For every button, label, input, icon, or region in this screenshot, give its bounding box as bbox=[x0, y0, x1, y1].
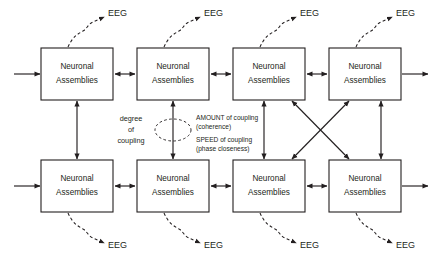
box-rect-top-1 bbox=[41, 48, 113, 100]
box-top-2[interactable]: Neuronal Assemblies bbox=[137, 48, 209, 100]
box-label-top-2-line2: Assemblies bbox=[152, 76, 194, 85]
eeg-label-bottom-1: EEG bbox=[108, 240, 127, 250]
box-label-bottom-1-line2: Assemblies bbox=[56, 188, 98, 197]
box-rect-top-2 bbox=[137, 48, 209, 100]
box-label-top-1-line1: Neuronal bbox=[60, 62, 93, 71]
box-label-top-3-line1: Neuronal bbox=[252, 62, 285, 71]
eeg-label-bottom-3: EEG bbox=[300, 240, 319, 250]
box-rect-top-4 bbox=[329, 48, 401, 100]
box-rect-bottom-4 bbox=[329, 160, 401, 212]
neuronal-assemblies-diagram: Neuronal Assemblies Neuronal Assemblies … bbox=[0, 0, 441, 258]
annot-degree-line3: coupling bbox=[117, 136, 144, 145]
box-bottom-1[interactable]: Neuronal Assemblies bbox=[41, 160, 113, 212]
box-bottom-2[interactable]: Neuronal Assemblies bbox=[137, 160, 209, 212]
annot-speed-line1: SPEED of coupling bbox=[196, 136, 252, 144]
annot-degree-line2: of bbox=[128, 125, 135, 134]
annot-degree-line1: degree bbox=[120, 114, 143, 123]
eeg-label-top-1: EEG bbox=[108, 8, 127, 18]
box-top-4[interactable]: Neuronal Assemblies bbox=[329, 48, 401, 100]
box-label-bottom-2-line1: Neuronal bbox=[156, 174, 189, 183]
box-label-top-4-line2: Assemblies bbox=[344, 76, 386, 85]
eeg-label-bottom-2: EEG bbox=[204, 240, 223, 250]
eeg-label-top-2: EEG bbox=[204, 8, 223, 18]
eeg-label-top-4: EEG bbox=[396, 8, 415, 18]
box-top-3[interactable]: Neuronal Assemblies bbox=[233, 48, 305, 100]
box-label-bottom-1-line1: Neuronal bbox=[60, 174, 93, 183]
box-rect-bottom-2 bbox=[137, 160, 209, 212]
box-bottom-4[interactable]: Neuronal Assemblies bbox=[329, 160, 401, 212]
box-label-top-3-line2: Assemblies bbox=[248, 76, 290, 85]
eeg-label-top-3: EEG bbox=[300, 8, 319, 18]
eeg-label-bottom-4: EEG bbox=[396, 240, 415, 250]
box-rect-bottom-3 bbox=[233, 160, 305, 212]
box-top-1[interactable]: Neuronal Assemblies bbox=[41, 48, 113, 100]
box-label-bottom-4-line1: Neuronal bbox=[348, 174, 381, 183]
annot-speed-line2: (phase closeness) bbox=[196, 145, 250, 153]
box-label-bottom-2-line2: Assemblies bbox=[152, 188, 194, 197]
annot-amount-line2: (coherence) bbox=[196, 123, 231, 131]
box-rect-bottom-1 bbox=[41, 160, 113, 212]
diagram-canvas: Neuronal Assemblies Neuronal Assemblies … bbox=[0, 0, 441, 258]
box-bottom-3[interactable]: Neuronal Assemblies bbox=[233, 160, 305, 212]
box-label-bottom-3-line2: Assemblies bbox=[248, 188, 290, 197]
box-label-bottom-3-line1: Neuronal bbox=[252, 174, 285, 183]
box-label-top-2-line1: Neuronal bbox=[156, 62, 189, 71]
box-label-top-1-line2: Assemblies bbox=[56, 76, 98, 85]
box-rect-top-3 bbox=[233, 48, 305, 100]
annot-amount-line1: AMOUNT of coupling bbox=[196, 114, 259, 122]
box-label-top-4-line1: Neuronal bbox=[348, 62, 381, 71]
box-label-bottom-4-line2: Assemblies bbox=[344, 188, 386, 197]
